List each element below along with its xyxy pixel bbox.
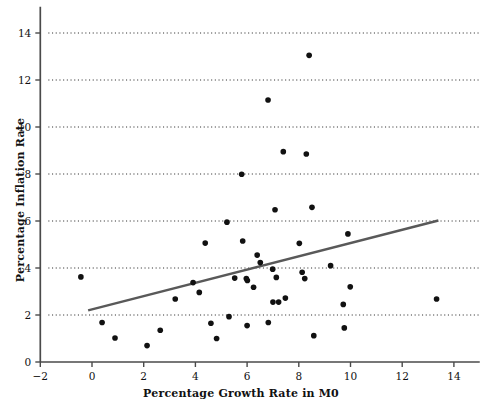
- data-point: [144, 343, 150, 349]
- data-point: [257, 260, 263, 266]
- data-point: [214, 336, 220, 342]
- data-point: [309, 205, 315, 211]
- x-tick-label: 6: [244, 370, 251, 382]
- data-point: [245, 278, 251, 284]
- x-tick-label: 14: [447, 370, 461, 382]
- data-point: [254, 252, 260, 258]
- data-point: [232, 275, 238, 281]
- data-point: [244, 323, 250, 329]
- data-point: [265, 320, 271, 326]
- data-point: [311, 333, 317, 339]
- scatter-chart-figure: −20246810121402468101214 Percentage Grow…: [0, 0, 482, 406]
- data-point: [306, 52, 312, 58]
- data-point: [340, 302, 346, 308]
- data-point: [270, 299, 276, 305]
- gridlines: [48, 33, 479, 315]
- data-point: [273, 275, 279, 281]
- data-point: [239, 171, 245, 177]
- data-point: [296, 240, 302, 246]
- data-point: [226, 314, 232, 320]
- data-point: [299, 269, 305, 275]
- data-point: [302, 276, 308, 282]
- data-points: [78, 52, 439, 348]
- data-point: [112, 335, 118, 341]
- data-point: [270, 266, 276, 272]
- data-point: [272, 207, 278, 213]
- data-point: [202, 240, 208, 246]
- data-point: [347, 284, 353, 290]
- data-point: [78, 274, 84, 280]
- data-point: [224, 219, 230, 225]
- y-tick-label: 2: [25, 309, 32, 321]
- y-tick-label: 12: [18, 74, 31, 86]
- data-point: [240, 238, 246, 244]
- data-point: [99, 320, 105, 326]
- data-point: [196, 290, 202, 296]
- x-tick-label: −2: [33, 370, 48, 382]
- data-point: [190, 280, 196, 286]
- x-axis-title: Percentage Growth Rate in M0: [0, 387, 482, 400]
- x-tick-label: 2: [140, 370, 147, 382]
- x-tick-label: 8: [295, 370, 302, 382]
- data-point: [251, 284, 257, 290]
- data-point: [157, 327, 163, 333]
- x-tick-label: 4: [192, 370, 199, 382]
- x-tick-label: 12: [396, 370, 409, 382]
- data-point: [434, 296, 440, 302]
- trend-line: [88, 221, 438, 311]
- data-point: [280, 149, 286, 155]
- y-axis-title: Percentage Inflation Rate: [14, 100, 27, 300]
- y-tick-label: 14: [18, 27, 32, 39]
- data-point: [276, 299, 282, 305]
- axis-lines: [40, 7, 479, 362]
- data-point: [172, 296, 178, 302]
- x-tick-label: 10: [344, 370, 357, 382]
- x-axis-ticks: −202468101214: [33, 362, 461, 382]
- data-point: [341, 325, 347, 331]
- data-point: [328, 263, 334, 269]
- plot-area: −20246810121402468101214: [0, 0, 482, 406]
- y-tick-label: 0: [25, 356, 32, 368]
- data-point: [265, 97, 271, 103]
- data-point: [208, 320, 214, 326]
- x-tick-label: 0: [89, 370, 96, 382]
- data-point: [303, 151, 309, 157]
- data-point: [283, 295, 289, 301]
- data-point: [345, 231, 351, 237]
